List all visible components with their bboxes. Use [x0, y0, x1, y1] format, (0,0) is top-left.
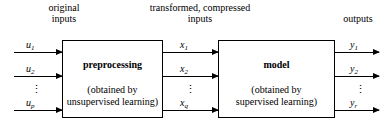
caption-original-inputs-line2: inputs [24, 13, 104, 24]
signal-label-x1-sub: 1 [184, 44, 188, 52]
block-model: model (obtained by supervised learning) [218, 40, 335, 118]
arrow-output-y1 [335, 52, 379, 53]
signal-label-x1: x1 [180, 40, 188, 50]
signal-label-u2-sub: 2 [31, 68, 35, 76]
caption-outputs: outputs [330, 13, 386, 24]
arrow-input-u2 [14, 76, 62, 77]
caption-transformed-inputs-line1: transformed, compressed [122, 2, 278, 13]
arrow-output-y2 [335, 76, 379, 77]
caption-transformed-inputs: transformed, compressed inputs [122, 2, 278, 24]
ellipsis-outputs: ⋮ [354, 85, 366, 93]
block-preprocessing: preprocessing (obtained by unsupervised … [62, 40, 163, 118]
signal-label-y1: y1 [350, 40, 358, 50]
signal-label-y1-sub: 1 [354, 44, 358, 52]
arrow-intermediate-x1 [163, 52, 218, 53]
block-diagram: original inputs transformed, compressed … [0, 0, 392, 121]
block-preprocessing-subtitle-line2: unsupervised learning) [61, 96, 164, 108]
signal-label-u2: u2 [26, 64, 35, 74]
signal-label-u1-sub: 1 [31, 44, 35, 52]
block-model-subtitle: (obtained by supervised learning) [217, 84, 336, 108]
signal-label-yr: yr [350, 98, 357, 108]
block-model-subtitle-line1: (obtained by [217, 84, 336, 96]
signal-label-up-sub: p [31, 102, 35, 110]
arrow-intermediate-x2 [163, 76, 218, 77]
arrow-input-u1 [14, 52, 62, 53]
signal-label-yr-sub: r [354, 102, 357, 110]
signal-label-x2-sub: 2 [184, 68, 188, 76]
block-preprocessing-subtitle-line1: (obtained by [61, 84, 164, 96]
ellipsis-intermediate: ⋮ [184, 85, 196, 93]
block-preprocessing-title: preprocessing [63, 59, 162, 70]
ellipsis-inputs: ⋮ [30, 85, 42, 93]
signal-label-up: up [26, 98, 35, 108]
block-model-title: model [219, 59, 334, 70]
caption-original-inputs: original inputs [24, 2, 104, 24]
signal-label-xq: xq [180, 98, 188, 108]
arrow-intermediate-xq [163, 110, 218, 111]
signal-label-u1: u1 [26, 40, 35, 50]
signal-label-x2: x2 [180, 64, 188, 74]
caption-original-inputs-line1: original [24, 2, 104, 13]
block-model-subtitle-line2: supervised learning) [217, 96, 336, 108]
signal-label-y2-sub: 2 [354, 68, 358, 76]
caption-outputs-line1: outputs [330, 13, 386, 24]
block-preprocessing-subtitle: (obtained by unsupervised learning) [61, 84, 164, 108]
arrow-output-yr [335, 110, 379, 111]
arrow-input-up [14, 110, 62, 111]
signal-label-y2: y2 [350, 64, 358, 74]
caption-transformed-inputs-line2: inputs [122, 13, 278, 24]
signal-label-xq-sub: q [184, 102, 188, 110]
